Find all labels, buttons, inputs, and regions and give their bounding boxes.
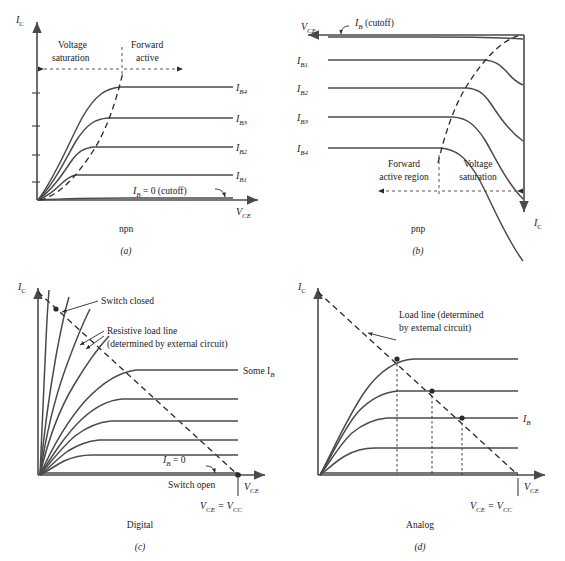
figure-transistor-characteristics: IC VCE Voltage saturation Forward active… bbox=[0, 0, 565, 561]
panel-c-curve-someib bbox=[40, 370, 136, 475]
panel-c-x-axis-label: VCE bbox=[244, 481, 260, 495]
panel-a-label-ib3: IB3 bbox=[235, 113, 248, 127]
panel-d-caption: Analog bbox=[406, 520, 434, 530]
panel-b-cutoff-line bbox=[328, 37, 523, 39]
panel-d-curve-3 bbox=[320, 391, 398, 475]
panel-a-region-left-line2: saturation bbox=[52, 53, 90, 63]
panel-c-switch-open-label: Switch open bbox=[168, 480, 215, 490]
panel-a-region-right-line1: Forward bbox=[131, 40, 163, 50]
panel-d-loadline-line2: by external circuit) bbox=[399, 323, 471, 334]
panel-b-pnp: VCE IC IB (cutoff) IB1 IB2 IB3 IB4 Forwa… bbox=[296, 17, 542, 261]
panel-c-y-axis-label: IC bbox=[17, 281, 26, 295]
panel-c-vcc-label: VCE = VCC bbox=[200, 500, 243, 514]
panel-b-x-axis-label: VCE bbox=[301, 21, 317, 35]
panel-c-caption: Digital bbox=[127, 520, 154, 530]
panel-c-curve-3 bbox=[40, 421, 111, 475]
panel-b-region-left-line2: active region bbox=[379, 172, 429, 182]
panel-d-x-axis-label: VCE bbox=[524, 481, 540, 495]
panel-b-cutoff-label: IB (cutoff) bbox=[354, 17, 394, 31]
panel-a-region-right-line2: active bbox=[136, 53, 159, 63]
panel-a-cutoff-leader bbox=[215, 189, 225, 197]
panel-c-loadline-line1: Resistive load line bbox=[107, 326, 177, 336]
panel-b-label-ib1: IB1 bbox=[296, 55, 308, 69]
panel-a-label-ib1: IB1 bbox=[235, 170, 247, 184]
panel-d-ib-label: IB bbox=[522, 413, 531, 427]
panel-b-label-ib3: IB3 bbox=[296, 112, 309, 126]
panel-c-some-ib-label: Some IB bbox=[243, 366, 275, 379]
panel-c-switch-closed-label: Switch closed bbox=[101, 296, 154, 306]
panel-c-leader-ibzero bbox=[206, 466, 215, 473]
panel-c-load-line bbox=[38, 292, 238, 475]
panel-b-region-right-line1: Voltage bbox=[464, 159, 493, 169]
panel-a-cutoff-label: IB = 0 (cutoff) bbox=[132, 185, 187, 199]
panel-a-caption: npn bbox=[119, 224, 134, 234]
panel-d-vcc-label: VCE = VCC bbox=[470, 500, 513, 514]
panel-c-digital: IC VCE Switch closed Resistive load line… bbox=[17, 281, 275, 553]
panel-d-curve-4 bbox=[320, 359, 414, 475]
panel-a-tag: (a) bbox=[120, 246, 131, 257]
panel-c-operating-point-closed bbox=[53, 306, 58, 311]
panel-b-cutoff-leader bbox=[341, 26, 349, 34]
panel-c-loadline-line2: (determined by external circuit) bbox=[107, 339, 228, 350]
panel-d-operating-point-3 bbox=[459, 415, 464, 420]
panel-d-leader-loadline bbox=[368, 333, 396, 340]
panel-a-npn: IC VCE Voltage saturation Forward active… bbox=[15, 14, 258, 257]
panel-b-y-axis-label: IC bbox=[533, 217, 542, 231]
panel-a-label-ib2: IB2 bbox=[235, 142, 248, 156]
panel-a-y-axis-label: IC bbox=[15, 14, 24, 28]
panel-b-saturation-boundary bbox=[438, 35, 521, 163]
panel-a-curve-ib4 bbox=[38, 87, 121, 200]
panel-d-operating-point-1 bbox=[394, 356, 399, 361]
panel-a-label-ib4: IB4 bbox=[235, 82, 248, 96]
panel-c-operating-point-open bbox=[235, 472, 241, 478]
panel-d-operating-point-2 bbox=[429, 388, 434, 393]
panel-d-y-axis-label: IC bbox=[297, 281, 306, 295]
panel-d-tag: (d) bbox=[414, 542, 425, 553]
panel-c-tag: (c) bbox=[135, 542, 146, 553]
panel-b-label-ib2: IB2 bbox=[296, 83, 309, 97]
panel-c-leader-loadline-2 bbox=[86, 336, 104, 349]
panel-d-analog: IC VCE Load line (determined by external… bbox=[297, 281, 545, 553]
panel-a-x-axis-label: VCE bbox=[236, 206, 252, 220]
panel-b-curve-ib1 bbox=[485, 60, 523, 85]
panel-b-region-left-line1: Forward bbox=[388, 159, 420, 169]
panel-d-loadline-line1: Load line (determined bbox=[399, 310, 484, 321]
panel-c-ib-zero-label: IB = 0 bbox=[162, 454, 186, 468]
panel-a-region-left-line1: Voltage bbox=[58, 40, 87, 50]
panel-a-curve-ib2 bbox=[38, 147, 94, 200]
panel-b-tag: (b) bbox=[412, 246, 423, 257]
panel-b-caption: pnp bbox=[411, 224, 426, 234]
panel-b-label-ib4: IB4 bbox=[296, 143, 309, 157]
panel-c-curve-6 bbox=[40, 309, 90, 475]
panel-b-curve-ib2 bbox=[467, 88, 523, 141]
panel-b-region-right-line2: saturation bbox=[459, 172, 497, 182]
